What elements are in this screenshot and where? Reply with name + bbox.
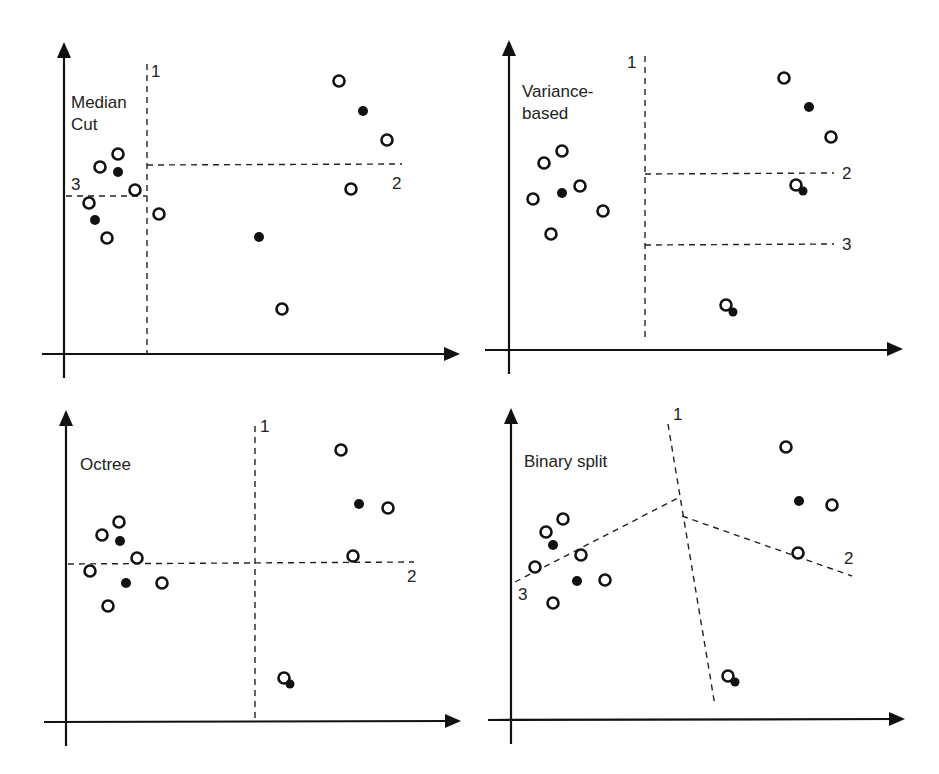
cut-label-1: 1 <box>151 62 160 81</box>
panel-variance-based: Variance- based 1 2 3 <box>485 40 903 374</box>
data-points <box>84 76 393 315</box>
x-axis <box>488 719 897 720</box>
x-axis-arrow-icon <box>889 712 905 726</box>
panel-title-line2: based <box>522 104 568 123</box>
y-axis-arrow-icon <box>502 40 516 56</box>
cut-line-1 <box>668 424 715 706</box>
data-points <box>528 73 837 317</box>
data-points <box>530 442 838 687</box>
cut-label-2: 2 <box>844 549 853 568</box>
cut-line-2 <box>682 516 852 576</box>
y-axis-arrow-icon <box>59 410 73 426</box>
cut-label-3: 3 <box>71 175 80 194</box>
cut-line-2 <box>147 164 402 165</box>
cut-line-2 <box>645 173 834 174</box>
panel-octree: Octree 1 2 <box>44 410 461 746</box>
cut-line-3 <box>645 244 834 245</box>
y-axis-arrow-icon <box>504 408 518 424</box>
cut-label-2: 2 <box>842 164 851 183</box>
cut-label-2: 2 <box>392 174 401 193</box>
panel-title-line1: Median <box>71 93 127 112</box>
cut-label-3: 3 <box>518 585 527 604</box>
cut-label-2: 2 <box>407 567 416 586</box>
panel-title-line2: Cut <box>71 115 98 134</box>
x-axis-arrow-icon <box>445 714 461 728</box>
y-axis-arrow-icon <box>57 42 71 58</box>
x-axis-arrow-icon <box>444 347 460 361</box>
figure-canvas: Median Cut 1 2 3 Varianc <box>0 0 939 774</box>
panel-title-line1: Binary split <box>524 452 607 471</box>
cut-label-1: 1 <box>260 417 269 436</box>
x-axis-arrow-icon <box>887 342 903 356</box>
panel-binary-split: Binary split 1 2 3 <box>488 405 905 744</box>
data-points <box>85 445 394 689</box>
cut-label-1: 1 <box>673 405 682 424</box>
x-axis <box>44 721 453 722</box>
cut-label-1: 1 <box>627 53 636 72</box>
cut-line-2 <box>68 562 414 564</box>
panel-median-cut: Median Cut 1 2 3 <box>42 42 460 378</box>
panel-title-line1: Octree <box>80 455 131 474</box>
cut-label-3: 3 <box>842 235 851 254</box>
panel-title-line1: Variance- <box>522 82 594 101</box>
